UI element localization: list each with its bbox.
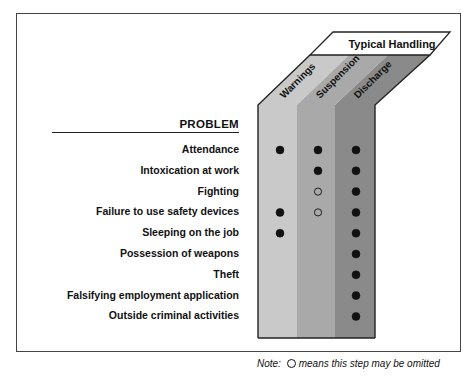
filled-circle-icon	[352, 250, 360, 258]
filled-circle-icon	[314, 146, 322, 154]
filled-circle-icon	[352, 167, 360, 175]
suspension-column	[297, 105, 335, 338]
banner-title: Typical Handling	[348, 38, 435, 50]
filled-circle-icon	[352, 146, 360, 154]
filled-circle-icon	[276, 229, 284, 237]
problem-row-label: Intoxication at work	[140, 164, 239, 176]
problem-row-label: Failure to use safety devices	[96, 205, 239, 217]
discharge-column	[335, 105, 375, 338]
filled-circle-icon	[352, 188, 360, 196]
problem-heading: PROBLEM	[52, 118, 239, 133]
filled-circle-icon	[276, 208, 284, 216]
filled-circle-icon	[352, 292, 360, 300]
note: Note: means this step may be omitted	[257, 358, 440, 369]
filled-circle-icon	[352, 229, 360, 237]
open-circle-icon	[287, 359, 296, 368]
problem-row-label: Fighting	[198, 185, 239, 197]
filled-circle-icon	[352, 312, 360, 320]
problem-row-label: Possession of weapons	[120, 247, 239, 259]
problem-row-label: Falsifying employment application	[67, 289, 239, 301]
filled-circle-icon	[276, 146, 284, 154]
warnings-column	[258, 105, 297, 338]
filled-circle-icon	[352, 271, 360, 279]
problem-row-label: Sleeping on the job	[142, 226, 239, 238]
filled-circle-icon	[314, 167, 322, 175]
problem-row-label: Outside criminal activities	[109, 309, 239, 321]
filled-circle-icon	[352, 208, 360, 216]
problem-row-label: Theft	[213, 268, 239, 280]
columns-outline-right	[375, 55, 430, 338]
note-text: means this step may be omitted	[299, 358, 440, 369]
note-prefix: Note:	[257, 358, 281, 369]
problem-row-label: Attendance	[182, 143, 239, 155]
